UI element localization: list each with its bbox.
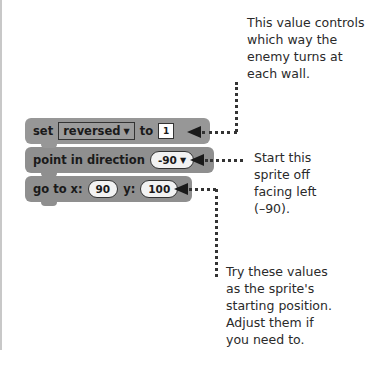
pointer-arrow-icon <box>174 183 188 195</box>
direction-dropdown[interactable]: -90 ▼ <box>150 151 194 169</box>
to-label: to <box>140 124 153 138</box>
callout-line <box>202 131 237 134</box>
set-value-input[interactable]: 1 <box>158 123 174 139</box>
reversed-annotation: This value controls which way the enemy … <box>247 14 364 82</box>
goto-x-label: go to x: <box>33 182 83 196</box>
y-input[interactable]: 100 <box>140 180 178 198</box>
dropdown-arrow-icon: ▼ <box>180 156 186 165</box>
dropdown-arrow-icon: ▼ <box>123 127 129 136</box>
set-variable-block[interactable]: set reversed ▼ to 1 <box>25 118 210 144</box>
position-annotation: Try these values as the sprite's startin… <box>226 263 332 348</box>
variable-name: reversed <box>63 124 120 138</box>
block-notch <box>41 201 57 206</box>
x-input[interactable]: 90 <box>88 180 119 198</box>
point-in-direction-block[interactable]: point in direction -90 ▼ <box>25 147 214 173</box>
set-label: set <box>33 124 53 138</box>
panel-border <box>0 0 2 350</box>
point-label: point in direction <box>33 153 145 167</box>
pointer-arrow-icon <box>190 154 204 166</box>
callout-line <box>215 189 218 277</box>
pointer-arrow-icon <box>187 126 201 138</box>
go-to-xy-block[interactable]: go to x: 90 y: 100 <box>25 176 192 202</box>
direction-value: -90 <box>158 154 177 166</box>
callout-line <box>205 159 243 162</box>
direction-annotation: Start this sprite off facing left (–90). <box>254 149 316 217</box>
callout-line <box>235 82 238 132</box>
goto-y-label: y: <box>123 182 135 196</box>
variable-dropdown[interactable]: reversed ▼ <box>58 122 134 140</box>
callout-line <box>189 188 216 191</box>
block-notch <box>41 143 57 148</box>
block-notch <box>41 172 57 177</box>
